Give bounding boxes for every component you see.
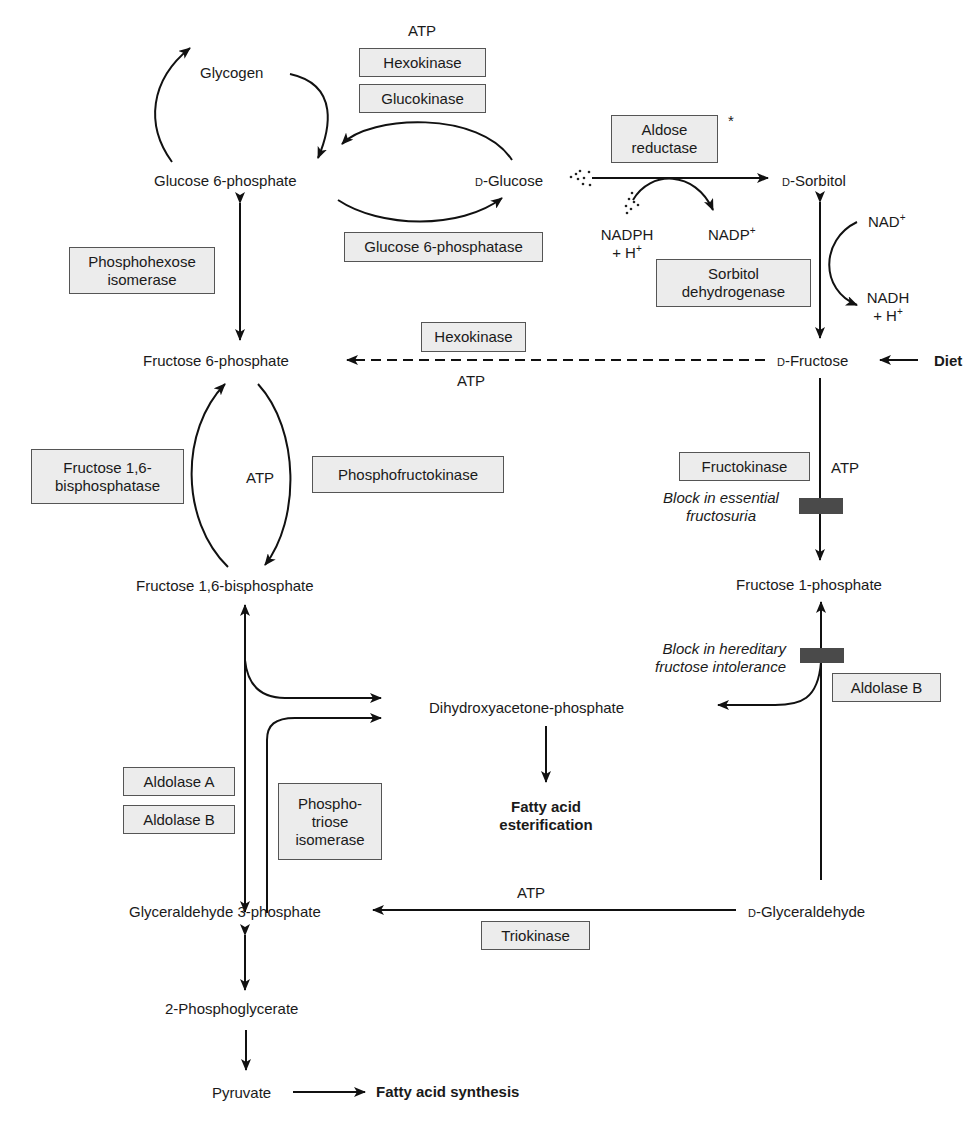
annotation-hereditary-fructose-intolerance: Block in hereditary fructose intolerance bbox=[626, 640, 786, 676]
metabolite-dihydroxyacetone-phosphate: Dihydroxyacetone-phosphate bbox=[429, 699, 624, 717]
arrow-glycogen-to-g6p bbox=[290, 74, 328, 158]
cofactor-nadp: NADP+ bbox=[708, 226, 756, 244]
metabolite-pyruvate: Pyruvate bbox=[212, 1084, 271, 1102]
enzyme-aldolase-a: Aldolase A bbox=[123, 767, 235, 796]
metabolite-d-glucose: D-Glucose bbox=[475, 172, 543, 191]
block-bar-essential-fructosuria bbox=[799, 498, 843, 514]
arrow-g6p-to-glucose bbox=[338, 198, 502, 222]
dotted-arrowheads bbox=[570, 170, 640, 215]
enzyme-hexokinase-mid: Hexokinase bbox=[421, 322, 526, 352]
metabolite-d-glyceraldehyde: D-Glyceraldehyde bbox=[748, 903, 865, 922]
metabolite-fructose-6-phosphate: Fructose 6-phosphate bbox=[143, 352, 289, 370]
metabolite-d-sorbitol: D-Sorbitol bbox=[782, 172, 846, 191]
enzyme-sorbitol-dehydrogenase: Sorbitol dehydrogenase bbox=[656, 259, 811, 307]
metabolite-fructose-1-phosphate: Fructose 1-phosphate bbox=[736, 576, 882, 594]
aldose-reductase-asterisk: * bbox=[728, 112, 734, 130]
enzyme-phosphohexose-isomerase: Phosphohexose isomerase bbox=[69, 247, 215, 294]
enzyme-phosphofructokinase: Phosphofructokinase bbox=[312, 456, 504, 493]
cofactor-atp-top: ATP bbox=[408, 22, 436, 40]
arrow-f16bp-to-dhap bbox=[245, 660, 381, 698]
metabolite-glucose-6-phosphate: Glucose 6-phosphate bbox=[154, 172, 297, 190]
block-bar-hereditary-fructose-intolerance bbox=[800, 648, 844, 663]
arrow-nadph-to-nadp bbox=[633, 179, 713, 210]
cofactor-atp-hexokinase: ATP bbox=[457, 372, 485, 390]
arrow-g6p-to-glycogen bbox=[155, 48, 190, 162]
outcome-fatty-acid-esterification: Fatty acid esterification bbox=[490, 798, 602, 834]
enzyme-aldose-reductase: Aldose reductase bbox=[611, 115, 718, 163]
enzyme-aldolase-b-left: Aldolase B bbox=[123, 805, 235, 834]
enzyme-hexokinase-top: Hexokinase bbox=[359, 48, 486, 77]
metabolite-fructose-1-6-bisphosphate: Fructose 1,6-bisphosphate bbox=[136, 577, 314, 595]
enzyme-glucokinase: Glucokinase bbox=[359, 84, 486, 113]
pathway-arrows bbox=[0, 0, 977, 1125]
metabolite-glycogen: Glycogen bbox=[200, 64, 263, 82]
enzyme-fructose-1-6-bisphosphatase: Fructose 1,6- bisphosphatase bbox=[31, 449, 184, 504]
cofactor-nadph: NADPH + H+ bbox=[592, 226, 662, 262]
arrow-glucose-to-g6p bbox=[342, 122, 512, 160]
outcome-fatty-acid-synthesis: Fatty acid synthesis bbox=[376, 1083, 519, 1101]
arrow-f16bp-to-f6p bbox=[192, 384, 228, 567]
arrow-nad-to-nadh bbox=[829, 222, 857, 305]
enzyme-fructokinase: Fructokinase bbox=[679, 452, 810, 481]
cofactor-atp-fructokinase: ATP bbox=[831, 459, 859, 477]
enzyme-triokinase: Triokinase bbox=[481, 921, 590, 950]
metabolite-glyceraldehyde-3-phosphate: Glyceraldehyde 3-phosphate bbox=[129, 903, 321, 921]
enzyme-aldolase-b-right: Aldolase B bbox=[832, 673, 941, 702]
cofactor-nad: NAD+ bbox=[868, 213, 906, 231]
annotation-essential-fructosuria: Block in essential fructosuria bbox=[651, 489, 791, 525]
enzyme-glucose-6-phosphatase: Glucose 6-phosphatase bbox=[344, 232, 543, 262]
cofactor-atp-triokinase: ATP bbox=[517, 884, 545, 902]
enzyme-phosphotriose-isomerase: Phospho- triose isomerase bbox=[278, 783, 382, 860]
cofactor-nadh: NADH + H+ bbox=[860, 289, 916, 325]
metabolite-2-phosphoglycerate: 2-Phosphoglycerate bbox=[165, 1000, 298, 1018]
cofactor-atp-pfk: ATP bbox=[246, 469, 274, 487]
source-diet: Diet bbox=[934, 352, 962, 370]
metabolite-d-fructose: D-Fructose bbox=[777, 352, 848, 371]
